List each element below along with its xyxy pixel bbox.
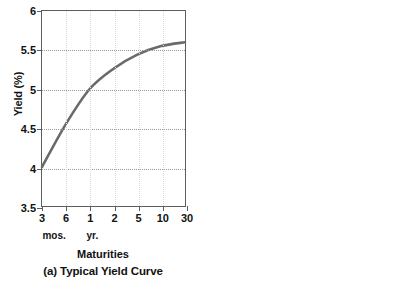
x-tick-label: 10 [157,212,169,224]
x-tick-mark [66,206,67,211]
x-axis-title-a: Maturities [18,248,188,260]
x-tick-mark [139,206,140,211]
x-tick-label: 5 [136,212,142,224]
x-tick-label: 3 [39,212,45,224]
y-tick-label: 4 [30,163,42,175]
y-tick-label: 5.5 [21,44,42,56]
gridline-vertical [115,11,116,206]
caption-a: (a) Typical Yield Curve [8,265,198,277]
y-tick-label: 4.5 [21,123,42,135]
y-axis-title-a: Yield (%) [12,54,24,134]
yield-curve-figure: Yield (%) 3.544.555.56361251030mos.yr. M… [0,0,406,282]
x-tick-mark [187,206,188,211]
x-tick-mark [42,206,43,211]
y-tick-label: 5 [30,84,42,96]
plot-area-typical: 3.544.555.56361251030mos.yr. [41,10,186,207]
x-tick-label: 30 [181,212,193,224]
x-axis-unit-months: mos. [42,230,65,241]
panel-typical-yield-curve: Yield (%) 3.544.555.56361251030mos.yr. M… [0,0,203,282]
gridline-vertical [90,11,91,206]
x-tick-mark [163,206,164,211]
x-tick-label: 6 [63,212,69,224]
panel-inverted-yield-curve: Yield (%) 55.566.577.5361251030mos.yr. M… [203,0,406,282]
y-tick-label: 6 [30,5,42,17]
x-axis-unit-years: yr. [86,230,98,241]
gridline-vertical [163,11,164,206]
x-tick-label: 2 [111,212,117,224]
gridline-vertical [66,11,67,206]
x-tick-label: 1 [87,212,93,224]
x-tick-mark [115,206,116,211]
x-tick-mark [90,206,91,211]
gridline-vertical [139,11,140,206]
